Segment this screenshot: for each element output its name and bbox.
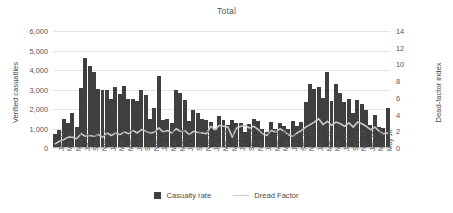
x-axis-tick-label: Jul 15 <box>239 133 246 151</box>
y-axis-right-title: Dead-factor index <box>434 45 443 141</box>
x-axis-tick-label: May 16 <box>282 129 289 151</box>
x-axis-tick-label: Mar 13 <box>118 130 125 151</box>
x-axis-tick-label: Mar 15 <box>222 130 229 151</box>
legend-label-casualty-rate: Casualty rate <box>166 191 211 200</box>
x-axis-tick-label: Jan 13 <box>110 131 117 151</box>
x-axis-tick-label: Nov 13 <box>153 130 160 151</box>
y-axis-left-tick-label: 2,000 <box>16 105 48 114</box>
legend-item-dread-factor: Dread Factor <box>233 191 298 200</box>
chart-title: Total <box>0 6 453 16</box>
y-axis-left-tick-label: 0 <box>16 144 48 153</box>
x-axis-tick-label: Sep 17 <box>352 130 359 151</box>
y-axis-right-tick-label: 6 <box>396 94 420 103</box>
x-axis-tick-label: Sep 16 <box>300 130 307 151</box>
y-axis-left-tick-label: 1,000 <box>16 125 48 134</box>
x-axis-tick-label: May 12 <box>75 129 82 151</box>
x-axis-tick-label: Mar 16 <box>274 130 281 151</box>
y-axis-left-tick-label: 3,000 <box>16 86 48 95</box>
x-axis-tick-label: Jan 12 <box>58 131 65 151</box>
x-axis-tick-label: May 17 <box>334 129 341 151</box>
x-axis-tick-label: Jan 17 <box>317 131 324 151</box>
y-axis-left-tick-label: 5,000 <box>16 47 48 56</box>
y-axis-right-tick-label: 10 <box>396 60 420 69</box>
y-axis-left-tick-label: 4,000 <box>16 66 48 75</box>
x-axis-tick-label: Jul 17 <box>343 133 350 151</box>
y-axis-right-tick-label: 14 <box>396 27 420 36</box>
x-axis-tick-label: Jul 12 <box>84 133 91 151</box>
bar-swatch-icon <box>154 192 161 199</box>
x-axis-tick-label: Jan 14 <box>161 131 168 151</box>
legend-label-dread-factor: Dread Factor <box>254 191 298 200</box>
y-axis-right-tick-label: 2 <box>396 127 420 136</box>
x-axis-tick-label: Jul 16 <box>291 133 298 151</box>
line-swatch-icon <box>233 195 249 196</box>
x-axis-tick-label: Nov 12 <box>101 130 108 151</box>
x-axis-tick-label: Sep 13 <box>144 130 151 151</box>
chart-legend: Casualty rate Dread Factor <box>0 191 453 200</box>
x-axis-tick-label: May 13 <box>127 129 134 151</box>
x-axis-tick-label: May 15 <box>231 129 238 151</box>
x-axis-tick-label: May 14 <box>179 129 186 151</box>
x-axis-tick-label: Mar 14 <box>170 130 177 151</box>
x-axis-tick-label: Mar 18 <box>377 130 384 151</box>
x-axis-tick-label: Jan 18 <box>369 131 376 151</box>
x-axis-tick-label: Mar 12 <box>66 130 73 151</box>
x-axis-tick-label: Jul 13 <box>136 133 143 151</box>
chart-container: Total Verified casualties Dead-factor in… <box>0 0 453 213</box>
x-axis-tick-label: Nov 16 <box>308 130 315 151</box>
y-axis-right-tick-label: 12 <box>396 44 420 53</box>
x-axis-tick-label: May 18 <box>386 129 393 151</box>
x-axis-tick-label: Jan 16 <box>265 131 272 151</box>
y-axis-left-tick-label: 6,000 <box>16 27 48 36</box>
x-axis-tick-label: Sep 15 <box>248 130 255 151</box>
x-axis-tick-label: Sep 12 <box>92 130 99 151</box>
legend-item-casualty-rate: Casualty rate <box>154 191 211 200</box>
x-axis-tick-label: Jan 15 <box>213 131 220 151</box>
y-axis-right-tick-label: 4 <box>396 111 420 120</box>
x-axis-tick-label: Nov 14 <box>205 130 212 151</box>
x-axis-tick-label: Nov 17 <box>360 130 367 151</box>
x-axis-tick-label: Sep 14 <box>196 130 203 151</box>
y-axis-right-tick-label: 0 <box>396 144 420 153</box>
x-axis-tick-label: Mar 17 <box>326 130 333 151</box>
x-axis-tick-label: Nov 15 <box>257 130 264 151</box>
x-axis-tick-label: Jul 14 <box>187 133 194 151</box>
y-axis-right-tick-label: 8 <box>396 77 420 86</box>
